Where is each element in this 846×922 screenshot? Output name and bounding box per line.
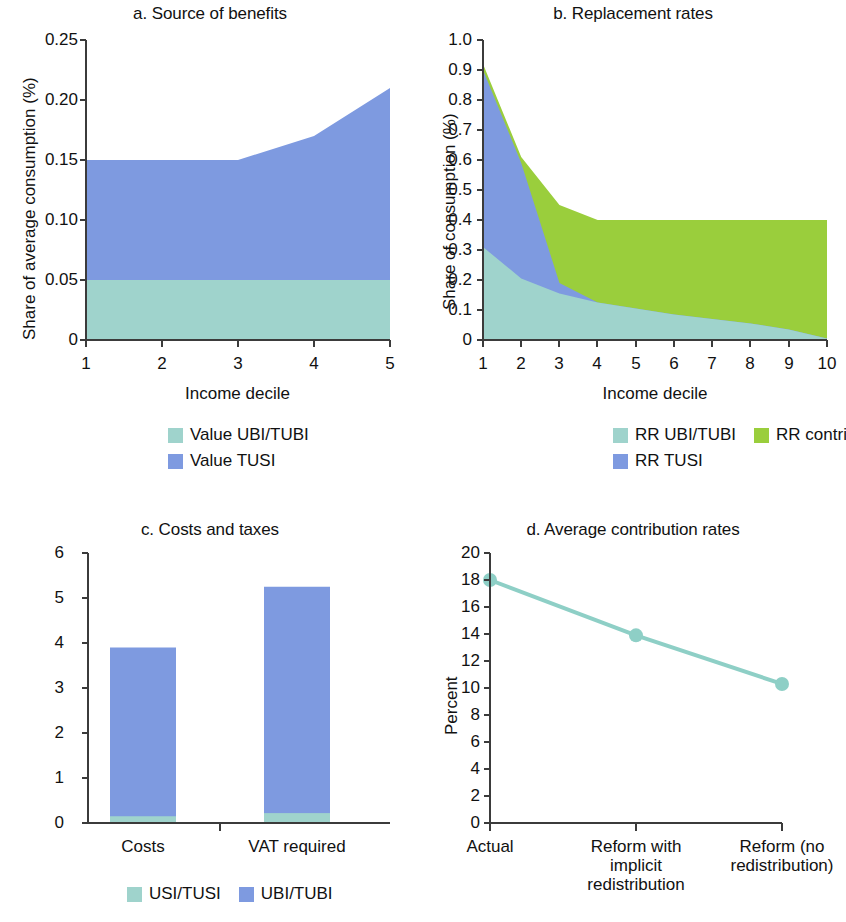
- legend-item-rr-ubi-tubi[interactable]: RR UBI/TUBI: [613, 425, 736, 445]
- panel-a-x-ticks: [86, 340, 390, 347]
- legend-item-value-ubi-tubi[interactable]: Value UBI/TUBI: [168, 425, 309, 445]
- panel-c-bar-costs-usi-tusi: [110, 816, 176, 823]
- legend-swatch-ubi-tubi: [239, 887, 254, 902]
- panel-a-svg: [0, 0, 420, 420]
- legend-label-value-tusi: Value TUSI: [190, 451, 275, 471]
- legend-item-rr-contributory[interactable]: RR contributory: [754, 425, 846, 445]
- panel-d-x-ticks: [490, 823, 782, 831]
- panel-b-legend-row-1: RR UBI/TUBI RR contributory: [613, 425, 846, 445]
- panel-c-svg: [0, 520, 420, 922]
- legend-swatch-value-tusi: [168, 454, 183, 469]
- panel-c-legend-row-1: USI/TUSI UBI/TUBI: [127, 884, 333, 904]
- panel-a-plot-area: [0, 0, 420, 420]
- figure-four-panel-chart: a. Source of benefits Share of average c…: [0, 0, 846, 922]
- panel-d-average-contribution-rates: d. Average contribution rates Percent 0 …: [420, 520, 846, 922]
- legend-item-usi-tusi[interactable]: USI/TUSI: [127, 884, 221, 904]
- panel-b-plot-area: [420, 0, 846, 420]
- panel-c-bar-costs-ubi-tubi: [110, 648, 176, 824]
- panel-d-markers: [483, 573, 789, 691]
- panel-d-svg: [420, 520, 846, 922]
- panel-c-costs-and-taxes: c. Costs and taxes Share of GDP (%) 0 1 …: [0, 520, 420, 922]
- panel-a-area-value-ubi-tubi: [86, 280, 390, 340]
- legend-swatch-usi-tusi: [127, 887, 142, 902]
- panel-d-plot-area: [420, 520, 846, 922]
- legend-item-ubi-tubi[interactable]: UBI/TUBI: [239, 884, 333, 904]
- panel-c-bar-vat-required-usi-tusi: [264, 813, 330, 823]
- panel-c-plot-area: [0, 520, 420, 922]
- panel-b-x-ticks: [483, 340, 827, 347]
- panel-d-data-point: [775, 677, 789, 691]
- panel-c-legend: USI/TUSI UBI/TUBI: [127, 884, 333, 904]
- legend-label-rr-contributory: RR contributory: [776, 425, 846, 445]
- panel-a-source-of-benefits: a. Source of benefits Share of average c…: [0, 0, 420, 420]
- legend-label-ubi-tubi: UBI/TUBI: [261, 884, 333, 904]
- legend-label-rr-ubi-tubi: RR UBI/TUBI: [635, 425, 736, 445]
- panel-b-svg: [420, 0, 846, 420]
- legend-swatch-rr-contributory: [754, 428, 769, 443]
- panel-a-legend-row-1: Value UBI/TUBI: [168, 425, 327, 445]
- legend-item-rr-tusi[interactable]: RR TUSI: [613, 451, 703, 471]
- panel-a-legend-row-2: Value TUSI: [168, 451, 327, 471]
- legend-swatch-rr-tusi: [613, 454, 628, 469]
- legend-item-value-tusi[interactable]: Value TUSI: [168, 451, 275, 471]
- legend-swatch-rr-ubi-tubi: [613, 428, 628, 443]
- panel-b-replacement-rates: b. Replacement rates Share of consumptio…: [420, 0, 846, 420]
- panel-c-bar-vat-required-ubi-tubi: [264, 587, 330, 823]
- panel-d-data-point: [629, 628, 643, 642]
- legend-label-rr-tusi: RR TUSI: [635, 451, 703, 471]
- legend-label-usi-tusi: USI/TUSI: [149, 884, 221, 904]
- legend-swatch-value-ubi-tubi: [168, 428, 183, 443]
- panel-a-legend: Value UBI/TUBI Value TUSI: [168, 425, 327, 477]
- panel-b-legend: RR UBI/TUBI RR contributory RR TUSI: [613, 425, 846, 477]
- legend-label-value-ubi-tubi: Value UBI/TUBI: [190, 425, 309, 445]
- panel-b-legend-row-2: RR TUSI: [613, 451, 846, 471]
